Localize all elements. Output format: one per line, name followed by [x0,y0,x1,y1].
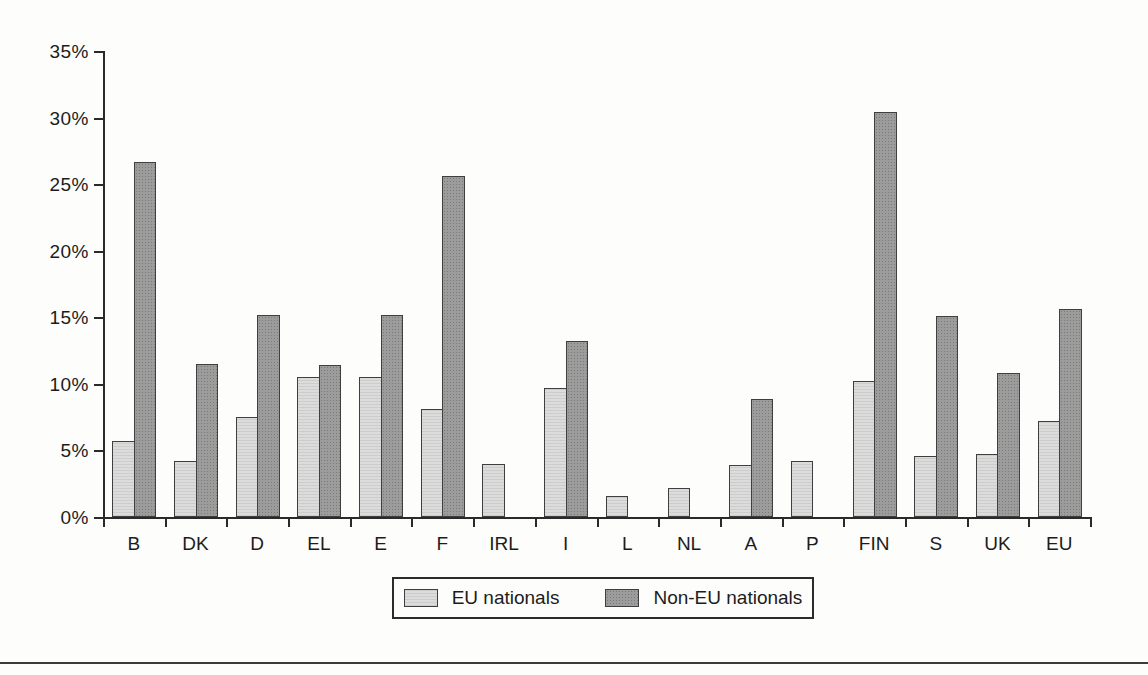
page-divider-rule [0,662,1148,664]
y-axis-tick-label: 35% [41,41,89,63]
y-axis-tick [94,317,103,319]
x-axis-tick [843,517,845,527]
bar-i-eu-nationals [544,388,567,517]
x-axis-tick [103,517,105,527]
x-axis-category-label: A [744,533,757,555]
x-axis-category-label: EU [1046,533,1072,555]
y-axis-tick [94,184,103,186]
legend: EU nationals Non-EU nationals [392,577,814,619]
x-axis-category-label: D [250,533,264,555]
bar-el-eu-nationals [297,377,320,517]
x-axis-tick [967,517,969,527]
bar-uk-non-eu-nationals [997,373,1020,517]
x-axis-tick [226,517,228,527]
bar-dk-eu-nationals [174,461,197,517]
bar-eu-eu-nationals [1038,421,1061,517]
bar-d-eu-nationals [236,417,259,517]
bar-s-non-eu-nationals [936,316,959,517]
y-axis-tick [94,384,103,386]
x-axis-tick [288,517,290,527]
x-axis-category-label: E [374,533,387,555]
bar-l-eu-nationals [606,496,629,517]
x-axis-tick [411,517,413,527]
bar-i-non-eu-nationals [566,341,589,517]
y-axis-line [103,51,105,519]
x-axis-tick [1028,517,1030,527]
x-axis-category-label: L [622,533,633,555]
x-axis-tick [905,517,907,527]
bar-dk-non-eu-nationals [196,364,219,517]
x-axis-tick [658,517,660,527]
x-axis-tick [535,517,537,527]
bar-s-eu-nationals [914,456,937,517]
y-axis-tick-label: 25% [41,174,89,196]
x-axis-tick [350,517,352,527]
legend-swatch-non-eu-nationals [605,589,639,607]
x-axis-category-label: B [128,533,141,555]
bar-chart-figure: 0%5%10%15%20%25%30%35%BDKDELEFIRLILNLAPF… [0,0,1148,675]
bar-fin-eu-nationals [853,381,876,517]
legend-label-non-eu-nationals: Non-EU nationals [653,587,802,609]
y-axis-tick [94,118,103,120]
bar-f-non-eu-nationals [442,176,465,517]
x-axis-tick [1090,517,1092,527]
x-axis-category-label: FIN [859,533,890,555]
bar-a-eu-nationals [729,465,752,517]
x-axis-tick [473,517,475,527]
y-axis-tick [94,517,103,519]
bar-eu-non-eu-nationals [1059,309,1082,517]
x-axis-category-label: I [563,533,568,555]
bar-b-non-eu-nationals [134,162,157,517]
bar-p-eu-nationals [791,461,814,517]
y-axis-tick-label: 30% [41,108,89,130]
y-axis-tick [94,51,103,53]
x-axis-category-label: DK [182,533,208,555]
y-axis-tick-label: 10% [41,374,89,396]
y-axis-tick-label: 5% [41,440,89,462]
x-axis-tick [597,517,599,527]
bar-fin-non-eu-nationals [874,112,897,517]
y-axis-tick-label: 20% [41,241,89,263]
y-axis-tick [94,450,103,452]
x-axis-category-label: NL [677,533,701,555]
legend-label-eu-nationals: EU nationals [452,587,560,609]
bar-e-eu-nationals [359,377,382,517]
x-axis-tick [720,517,722,527]
bar-b-eu-nationals [112,441,135,517]
bar-f-eu-nationals [421,409,444,517]
bar-uk-eu-nationals [976,454,999,517]
bar-a-non-eu-nationals [751,399,774,517]
bar-nl-eu-nationals [668,488,691,517]
x-axis-category-label: EL [307,533,330,555]
bar-e-non-eu-nationals [381,315,404,517]
plot-area: 0%5%10%15%20%25%30%35%BDKDELEFIRLILNLAPF… [0,0,1148,675]
x-axis-tick [782,517,784,527]
x-axis-category-label: P [806,533,819,555]
legend-swatch-eu-nationals [404,589,438,607]
x-axis-category-label: S [929,533,942,555]
y-axis-tick [94,251,103,253]
bar-el-non-eu-nationals [319,365,342,517]
x-axis-category-label: IRL [489,533,519,555]
x-axis-category-label: UK [984,533,1010,555]
x-axis-category-label: F [436,533,448,555]
x-axis-tick [165,517,167,527]
bar-d-non-eu-nationals [257,315,280,517]
y-axis-tick-label: 15% [41,307,89,329]
bar-irl-eu-nationals [482,464,505,517]
y-axis-tick-label: 0% [41,507,89,529]
